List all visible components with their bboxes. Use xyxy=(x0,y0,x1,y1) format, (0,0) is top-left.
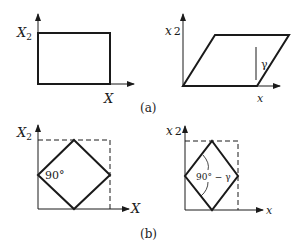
angle-label: 90° − γ xyxy=(196,172,231,182)
angle-arc-upper xyxy=(203,155,208,170)
angle-arc-lower xyxy=(201,182,208,196)
panel-a-left: X2 X xyxy=(16,14,134,106)
panel-a-right: γ x2 x xyxy=(165,14,289,105)
y-axis-label: x2 xyxy=(166,124,182,138)
x-axis-label: x xyxy=(257,92,264,105)
deformation-diagram: X2 X γ x2 x (a) 90° X2 X 90° − γ x2 x (b… xyxy=(0,0,301,251)
right-angle-label: 90° xyxy=(45,169,65,182)
x-axis-label: X xyxy=(103,91,114,106)
panel-b-right: 90° − γ x2 x xyxy=(166,124,273,217)
sheared-parallelogram xyxy=(183,35,289,86)
caption-b: (b) xyxy=(140,227,157,241)
y-axis-label: x2 xyxy=(165,24,181,38)
y-axis-label: X2 xyxy=(16,125,32,142)
reference-rectangle xyxy=(38,33,110,84)
shear-angle-label: γ xyxy=(261,58,268,71)
caption-a: (a) xyxy=(140,101,157,115)
panel-b-left: 90° X2 X xyxy=(16,125,141,216)
x-axis-label: X xyxy=(130,201,141,216)
x-axis-label: x xyxy=(266,204,273,217)
y-axis-label: X2 xyxy=(16,25,32,42)
